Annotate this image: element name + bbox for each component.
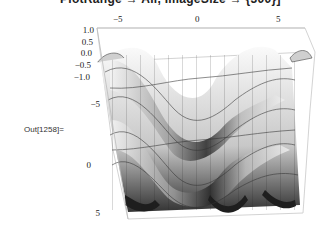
y-tick-label: −5	[90, 99, 100, 109]
z-tick-label: −0.5	[75, 60, 92, 70]
y-tick-label: 0	[87, 160, 92, 170]
x-tick-label: −5	[113, 14, 123, 24]
z-tick-label: 1.0	[83, 25, 95, 35]
surface-plot-3d[interactable]: −5 0 5 1.0 0.5 0.0 −0.5 −1.0 −5 0 5	[0, 0, 325, 239]
x-tick-label: 0	[195, 14, 200, 24]
x-axis: −5 0 5	[97, 14, 305, 28]
z-tick-label: 0.0	[81, 48, 93, 58]
x-tick-label: 5	[276, 14, 281, 24]
z-tick-label: −1.0	[74, 72, 91, 82]
z-axis: 1.0 0.5 0.0 −0.5 −1.0	[74, 25, 95, 82]
y-tick-label: 5	[96, 208, 101, 218]
z-tick-label: 0.5	[82, 37, 94, 47]
surface	[98, 47, 312, 213]
